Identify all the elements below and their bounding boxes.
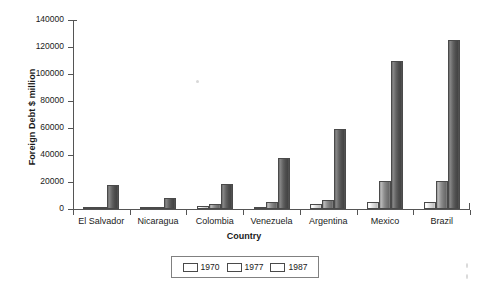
bar-group — [254, 20, 290, 209]
x-axis-category-label: Brazil — [430, 216, 453, 226]
y-axis-tick-label: 140000 — [36, 14, 64, 24]
scan-speckle — [196, 80, 199, 83]
x-axis-tick — [413, 210, 414, 215]
y-axis-tick: 20000 — [68, 182, 73, 183]
bar — [322, 200, 334, 209]
bar — [197, 206, 209, 209]
legend-swatch-1977 — [227, 263, 242, 272]
y-axis-tick: 100000 — [68, 74, 73, 75]
y-axis-tick-label: 120000 — [36, 41, 64, 51]
x-axis-category-label: Mexico — [371, 216, 400, 226]
y-axis-tick-label: 0 — [59, 203, 64, 213]
y-axis-top-cap — [73, 20, 77, 21]
scan-speckle — [466, 274, 468, 279]
bar — [424, 202, 436, 209]
scan-speckle — [466, 263, 468, 268]
bar — [107, 185, 119, 209]
y-axis-tick: 60000 — [68, 128, 73, 129]
x-axis-category-label: Venezuela — [250, 216, 292, 226]
x-axis-right-cap — [469, 203, 470, 210]
legend-label-1970: 1970 — [201, 262, 220, 272]
bar — [379, 181, 391, 209]
x-axis-category-label: Argentina — [309, 216, 348, 226]
bar — [448, 40, 460, 209]
x-axis-category-label: Colombia — [196, 216, 234, 226]
bar-group — [197, 20, 233, 209]
chart-legend: 1970 1977 1987 — [171, 256, 319, 278]
x-axis-category-label: Nicaragua — [138, 216, 179, 226]
plot-area: 020000400006000080000100000120000140000 … — [73, 20, 470, 210]
y-axis-line — [73, 20, 74, 210]
bar — [164, 198, 176, 209]
bar-group — [424, 20, 460, 209]
x-axis-tick — [186, 210, 187, 215]
legend-item: 1977 — [227, 262, 264, 272]
bar — [436, 181, 448, 209]
y-axis-tick: 140000 — [68, 20, 73, 21]
legend-item: 1987 — [270, 262, 307, 272]
bar — [334, 129, 346, 209]
x-axis-tick — [470, 210, 471, 215]
bar — [266, 202, 278, 209]
bar — [391, 61, 403, 210]
legend-label-1977: 1977 — [245, 262, 264, 272]
x-axis-tick — [243, 210, 244, 215]
x-axis-line — [73, 209, 470, 210]
x-axis-tick — [300, 210, 301, 215]
bar — [152, 207, 164, 209]
bar-group — [310, 20, 346, 209]
legend-swatch-1987 — [270, 263, 285, 272]
bar — [221, 184, 233, 209]
y-axis-tick: 80000 — [68, 101, 73, 102]
bar — [83, 207, 95, 209]
y-axis-tick: 120000 — [68, 47, 73, 48]
x-axis-tick — [73, 210, 74, 215]
x-axis-category-label: El Salvador — [78, 216, 124, 226]
legend-swatch-1970 — [183, 263, 198, 272]
bar-group — [367, 20, 403, 209]
bar-group — [83, 20, 119, 209]
y-axis-title: Foreign Debt $ million — [27, 37, 37, 197]
y-axis-tick: 40000 — [68, 155, 73, 156]
bar — [254, 207, 266, 209]
y-axis-tick-label: 40000 — [40, 149, 64, 159]
legend-item: 1970 — [183, 262, 220, 272]
y-axis-tick-label: 60000 — [40, 122, 64, 132]
bar-group — [140, 20, 176, 209]
bar — [310, 204, 322, 209]
bar — [140, 207, 152, 209]
bar — [278, 158, 290, 209]
bar — [367, 202, 379, 209]
x-axis-title: Country — [0, 231, 488, 241]
bar-chart-figure: Foreign Debt $ million 02000040000600008… — [0, 0, 488, 294]
legend-label-1987: 1987 — [288, 262, 307, 272]
y-axis-tick-label: 80000 — [40, 95, 64, 105]
bar — [209, 204, 221, 209]
bar — [95, 207, 107, 209]
y-axis-tick-label: 20000 — [40, 176, 64, 186]
x-axis-tick — [357, 210, 358, 215]
x-axis-tick — [130, 210, 131, 215]
y-axis-tick-label: 100000 — [36, 68, 64, 78]
